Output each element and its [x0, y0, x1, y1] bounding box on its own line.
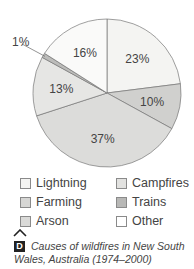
slice-label: 23% — [125, 52, 149, 66]
legend-swatch — [116, 216, 127, 227]
pie-chart: 23%10%37%13%1%16% — [0, 0, 194, 175]
legend-item-other: Other — [116, 214, 163, 228]
legend-item-lightning: Lightning — [20, 176, 87, 190]
figure-caption: DCauses of wildfires in New South Wales,… — [14, 240, 192, 266]
legend-item-farming: Farming — [20, 195, 82, 209]
legend-item-campfires: Campfires — [116, 176, 189, 190]
legend-swatch — [20, 178, 31, 189]
roof-icon — [13, 229, 27, 237]
legend-item-arson: Arson — [20, 214, 69, 228]
legend-swatch — [20, 197, 31, 208]
legend-swatch — [20, 216, 31, 227]
slice-label: 13% — [49, 82, 73, 96]
caption-text: Causes of wildfires in New South Wales, … — [14, 240, 185, 265]
slice-label: 16% — [73, 46, 97, 60]
legend-item-trains: Trains — [116, 195, 166, 209]
figure-badge: D — [14, 241, 25, 252]
slice-label: 37% — [91, 132, 115, 146]
legend-swatch — [116, 197, 127, 208]
legend-swatch — [116, 178, 127, 189]
slice-label: 10% — [140, 95, 164, 109]
slice-label: 1% — [12, 35, 30, 49]
